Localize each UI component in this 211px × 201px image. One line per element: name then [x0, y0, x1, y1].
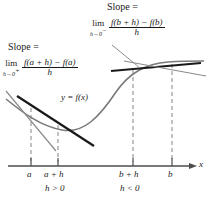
- axis-tick-label-a: a: [27, 170, 32, 179]
- x-axis-label: x: [199, 160, 203, 169]
- condition-label-h-negative: h < 0: [120, 184, 140, 193]
- leader-line-right-annotation: [112, 45, 140, 68]
- right-denominator: h: [109, 28, 165, 37]
- right-limit-expression: lim h→0− f(b + h) − f(b) h: [90, 18, 165, 38]
- right-slope-label: Slope =: [107, 2, 138, 13]
- right-difference-quotient: f(b + h) − f(b) h: [109, 18, 165, 38]
- axis-tick-label-b-plus-h: b + h: [119, 170, 139, 179]
- right-limit-operator: lim h→0−: [90, 19, 107, 37]
- left-slope-label: Slope =: [8, 42, 39, 53]
- x-axis-arrowhead: [189, 163, 197, 169]
- calculus-derivative-diagram: Slope = lim h→0− f(b + h) − f(b) h Slope…: [0, 0, 211, 201]
- axis-tick-label-a-plus-h: a + h: [44, 170, 64, 179]
- condition-label-h-positive: h > 0: [45, 184, 65, 193]
- secant-line-a-to-a-plus-h: [17, 96, 94, 146]
- tangent-line-at-a: [6, 91, 56, 151]
- axis-tick-label-b: b: [168, 170, 173, 179]
- axis-tick-marks: [31, 158, 172, 166]
- left-denominator: h: [22, 68, 78, 77]
- curve-label: y = f(x): [61, 93, 88, 102]
- left-difference-quotient: f(a + h) − f(a) h: [22, 58, 78, 78]
- left-limit-operator: lim h→0+: [3, 59, 20, 77]
- left-limit-expression: lim h→0+ f(a + h) − f(a) h: [3, 58, 78, 78]
- right-lim-subscript: h→0−: [90, 28, 107, 37]
- left-lim-subscript: h→0+: [3, 68, 20, 77]
